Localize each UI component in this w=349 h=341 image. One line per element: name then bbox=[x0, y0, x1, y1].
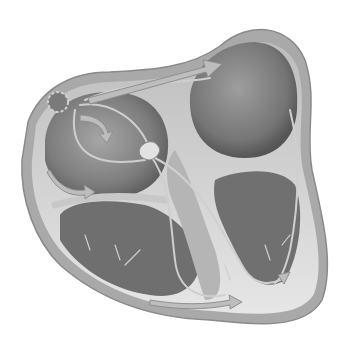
sinoatrial-node bbox=[48, 92, 68, 112]
heart-svg bbox=[0, 0, 349, 341]
heart-conduction-illustration bbox=[0, 0, 349, 341]
